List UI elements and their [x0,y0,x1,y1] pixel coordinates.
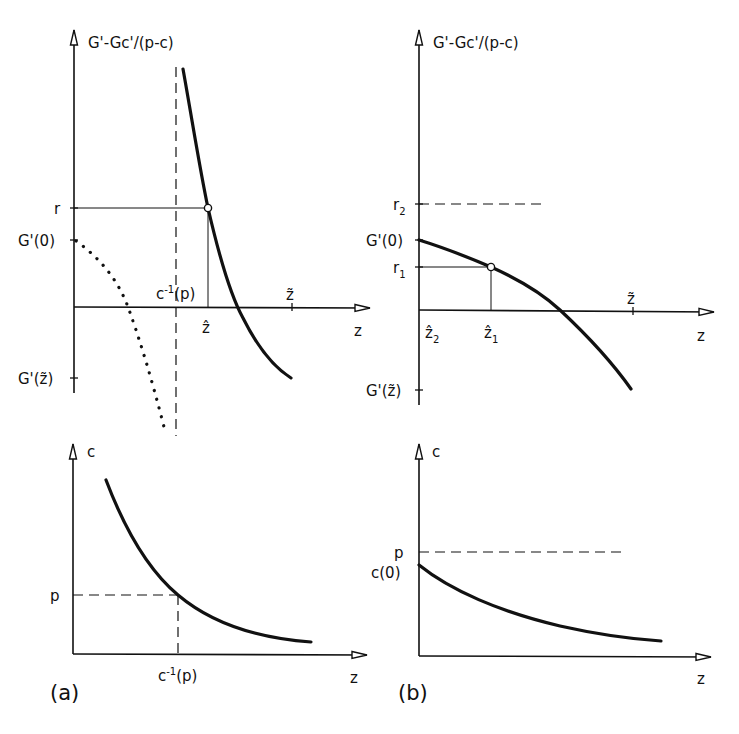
cost-curve [419,565,661,641]
label-z-axis: z [350,669,358,687]
optimum-marker [204,204,211,211]
panel-a-bottom-plot: c p c-1(p) z (a) [50,443,367,705]
label-p: p [50,587,60,605]
label-p: p [394,544,404,562]
label-zhat2: ẑ2 [425,324,439,345]
label-g0: G'(0) [18,232,55,250]
optimum-marker [487,263,494,270]
label-z-axis: z [697,670,705,688]
label-c-inverse-p: c-1(p) [158,666,197,685]
cost-curve [106,480,311,642]
label-r2: r2 [393,196,406,217]
panel-caption-a: (a) [50,681,79,705]
panel-a-top-plot: G'-Gc'/(p-c) r G'(0) G'(z̃) c-1(p) ẑ z̃ … [18,30,370,436]
label-c-inverse-p: c-1(p) [156,284,195,303]
label-r1: r1 [393,259,406,280]
panel-b-top-x-axis [419,310,714,312]
label-c0: c(0) [371,564,401,582]
label-zhat: ẑ [202,319,210,337]
panel-a-bottom-x-axis [73,654,367,655]
panel-b-bottom-plot: c p c(0) z (b) [371,443,711,705]
label-zhat1: ẑ1 [484,324,498,345]
dotted-curve-g-prime [76,241,164,427]
y-axis-label-c: c [432,443,440,461]
label-z-axis: z [697,327,705,345]
solid-curve-objective [419,240,631,389]
label-gz: G'(z̃) [18,370,53,388]
label-z-axis: z [354,322,362,340]
y-axis-label: G'-Gc'/(p-c) [433,34,519,52]
panel-b-bottom-x-axis [419,656,711,657]
label-gz: G'(z̃) [366,382,401,400]
label-ztilde: z̃ [286,286,294,304]
label-ztilde: z̃ [627,290,635,308]
y-axis-label-c: c [87,443,95,461]
label-g0: G'(0) [366,232,403,250]
panel-b-top-plot: G'-Gc'/(p-c) r2 G'(0) r1 G'(z̃) ẑ2 ẑ1 z̃… [366,30,714,405]
solid-curve-objective [183,69,291,378]
figure-canvas: G'-Gc'/(p-c) r G'(0) G'(z̃) c-1(p) ẑ z̃ … [0,0,739,734]
panel-caption-b: (b) [398,681,428,705]
panel-a-top-x-axis [74,307,370,308]
label-r: r [54,200,61,218]
y-axis-label: G'-Gc'/(p-c) [88,34,174,52]
